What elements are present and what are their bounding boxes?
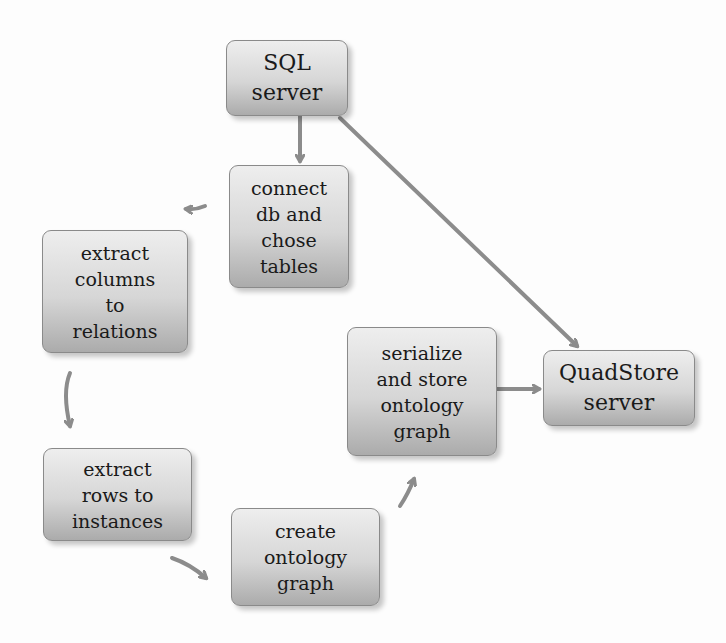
edge-connect-to-columns	[186, 206, 205, 209]
edge-columns-to-rows	[66, 373, 70, 426]
edge-create-to-serialize	[400, 479, 414, 506]
node-label: serialize and store ontology graph	[377, 340, 468, 444]
node-create-ontology: create ontology graph	[231, 508, 380, 606]
node-serialize-store: serialize and store ontology graph	[347, 327, 497, 456]
node-extract-rows: extract rows to instances	[43, 448, 192, 541]
node-label: QuadStore server	[559, 358, 679, 418]
flowchart-canvas: SQL server connect db and chose tables e…	[0, 0, 726, 643]
node-label: connect db and chose tables	[251, 175, 327, 279]
node-label: create ontology graph	[264, 518, 347, 596]
edge-rows-to-create	[172, 558, 206, 578]
node-label: SQL server	[227, 48, 347, 108]
node-quadstore-server: QuadStore server	[543, 350, 695, 426]
node-label: extract columns to relations	[73, 240, 158, 344]
node-extract-columns: extract columns to relations	[42, 230, 188, 353]
node-label: extract rows to instances	[72, 456, 163, 534]
node-connect-db: connect db and chose tables	[229, 165, 349, 288]
node-sql-server: SQL server	[226, 40, 348, 116]
edge-sql-to-quadstore	[340, 118, 577, 346]
